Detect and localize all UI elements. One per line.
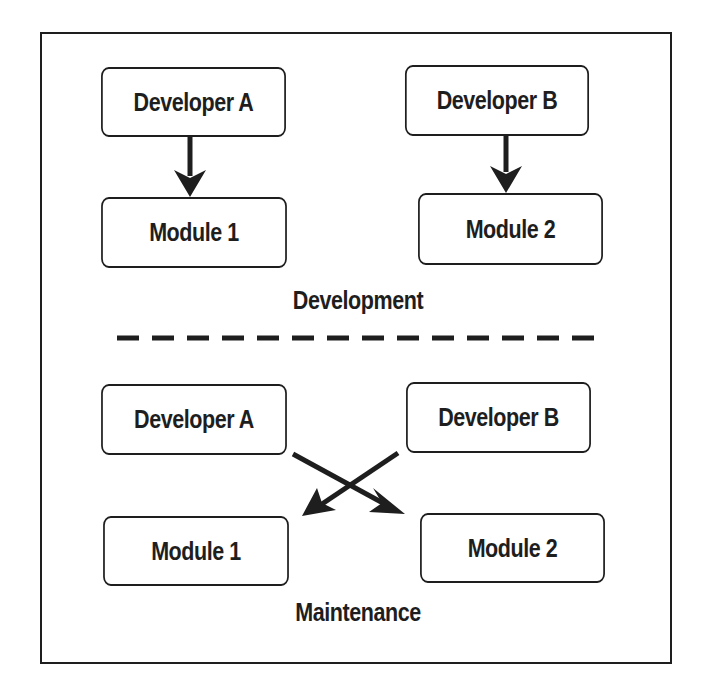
node-label: Developer A bbox=[134, 405, 254, 434]
maint-module-2-node: Module 2 bbox=[420, 513, 605, 583]
maint-developer-a-node: Developer A bbox=[101, 384, 287, 455]
node-label: Module 2 bbox=[468, 534, 558, 563]
node-label: Module 1 bbox=[149, 218, 239, 247]
maint-developer-b-node: Developer B bbox=[406, 382, 591, 453]
dev-developer-a-node: Developer A bbox=[101, 67, 286, 137]
maintenance-section-label: Maintenance bbox=[272, 598, 444, 627]
node-label: Module 1 bbox=[151, 537, 241, 566]
dev-module-1-node: Module 1 bbox=[101, 197, 287, 268]
node-label: Developer A bbox=[134, 88, 254, 117]
node-label: Developer B bbox=[437, 86, 558, 115]
dev-developer-b-node: Developer B bbox=[405, 65, 589, 136]
node-label: Developer B bbox=[438, 403, 559, 432]
maint-module-1-node: Module 1 bbox=[103, 516, 289, 586]
development-section-label: Development bbox=[272, 286, 444, 315]
dev-module-2-node: Module 2 bbox=[418, 193, 603, 265]
node-label: Module 2 bbox=[466, 215, 556, 244]
